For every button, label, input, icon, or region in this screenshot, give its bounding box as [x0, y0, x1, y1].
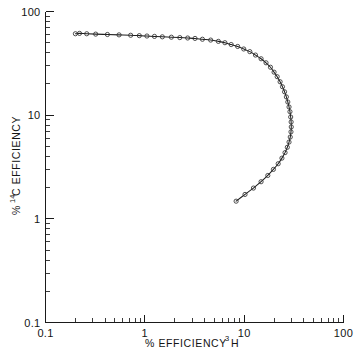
x-tick-label: 10	[238, 327, 251, 339]
y-axis-title: % 14 C EFFICIENCY	[8, 116, 23, 215]
log-log-scatter-plot: 0.11101001001010.1 % EFFICIENCY 3 H % 14…	[0, 0, 361, 352]
x-axis-title: % EFFICIENCY 3 H	[145, 334, 239, 349]
x-tick-label: 100	[334, 327, 353, 339]
axes-layer	[46, 12, 344, 323]
y-tick-label: 1	[34, 213, 40, 225]
x-axis-title-superscript: 3	[225, 334, 229, 343]
y-tick-label: 10	[28, 109, 41, 121]
y-axis-title-text: %	[10, 205, 22, 215]
x-axis-title-text: % EFFICIENCY	[145, 337, 227, 349]
y-tick-label: 100	[21, 6, 40, 18]
x-axis-title-suffix: H	[231, 337, 239, 349]
y-axis-title-suffix: C EFFICIENCY	[10, 116, 22, 196]
y-tick-label: 0.1	[24, 317, 40, 329]
data-series-layer	[73, 31, 293, 203]
ticks-layer	[46, 12, 344, 323]
tick-labels-layer: 0.11101001001010.1	[21, 6, 353, 339]
chart-page: 0.11101001001010.1 % EFFICIENCY 3 H % 14…	[0, 0, 361, 352]
